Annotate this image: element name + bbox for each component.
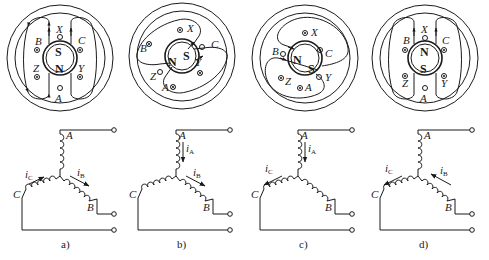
winding-label-b: B <box>203 201 210 213</box>
slot-label-x: X <box>420 23 429 35</box>
slot-label-a: A <box>419 92 427 104</box>
slot-label-x: X <box>55 23 64 35</box>
rotor-pole-n: N <box>293 53 302 67</box>
slot-label-c: C <box>78 34 86 46</box>
slot-label-b: B <box>272 45 279 57</box>
three-phase-rotating-field-diagram: S N X C Y A Z B N S X C Y A Z <box>0 0 489 260</box>
slot-label-z: Z <box>33 62 40 74</box>
slot-label-c: C <box>211 38 219 50</box>
current-label-ic: iC <box>25 168 33 182</box>
slot-label-b: B <box>403 34 410 46</box>
current-label-ib: iB <box>193 166 201 180</box>
slot-label-y: Y <box>325 71 333 83</box>
slot-label-z: Z <box>285 75 292 87</box>
caption-a: a) <box>61 238 70 251</box>
winding-label-c: C <box>251 188 259 200</box>
winding-label-a: A <box>178 129 186 141</box>
rotor-pole-s: S <box>183 49 190 63</box>
slot-label-x: X <box>186 22 195 34</box>
slot-label-c: C <box>325 47 333 59</box>
star-circuit-b: A B C iA iB b) <box>129 128 232 251</box>
rotor-pole-top: S <box>55 45 62 59</box>
machine-panel-d: N S X C Y A Z B <box>372 5 478 111</box>
slot-label-b: B <box>35 35 42 47</box>
slot-label-c: C <box>442 34 450 46</box>
star-circuit-c: A B C iA iC c) <box>251 128 354 251</box>
slot-label-a: A <box>161 81 169 93</box>
slot-label-b: B <box>140 42 147 54</box>
winding-label-a: A <box>65 129 73 141</box>
current-label-ic: iC <box>385 162 393 176</box>
slot-label-z: Z <box>150 70 157 82</box>
machine-panel-c: N S X C Y A Z B <box>252 5 358 111</box>
star-circuit-d: A B C iC iB d) <box>371 128 474 251</box>
slot-label-a: A <box>54 92 62 104</box>
machine-panel-b: N S X C Y A Z B <box>129 3 235 109</box>
rotor-pole-bottom: S <box>420 62 427 76</box>
current-label-ia: iA <box>186 142 194 156</box>
current-label-ib: iB <box>77 166 85 180</box>
rotor-pole-top: N <box>420 45 429 59</box>
current-label-ib: iB <box>440 164 448 178</box>
rotor-pole-s: S <box>308 62 315 76</box>
winding-label-b: B <box>445 201 452 213</box>
winding-label-c: C <box>129 188 137 200</box>
winding-label-c: C <box>371 188 379 200</box>
winding-label-a: A <box>423 129 431 141</box>
winding-label-b: B <box>87 201 94 213</box>
caption-d: d) <box>419 238 429 251</box>
winding-label-a: A <box>300 129 308 141</box>
rotor-pole-bottom: N <box>55 62 64 76</box>
slot-label-y: Y <box>78 62 86 74</box>
caption-b: b) <box>177 238 187 251</box>
winding-label-b: B <box>325 201 332 213</box>
winding-label-c: C <box>13 188 21 200</box>
current-label-ic: iC <box>265 162 273 176</box>
current-label-ia: iA <box>308 142 316 156</box>
slot-label-y: Y <box>441 77 449 89</box>
caption-c: c) <box>299 238 308 251</box>
star-circuit-a: A B C iC iB a) <box>13 128 116 251</box>
slot-label-y: Y <box>195 56 203 68</box>
slot-label-z: Z <box>402 77 409 89</box>
rotor-pole-n: N <box>168 55 177 69</box>
slot-label-a: A <box>304 81 312 93</box>
slot-label-x: X <box>310 26 319 38</box>
machine-panel-a: S N X C Y A Z B <box>7 5 113 111</box>
